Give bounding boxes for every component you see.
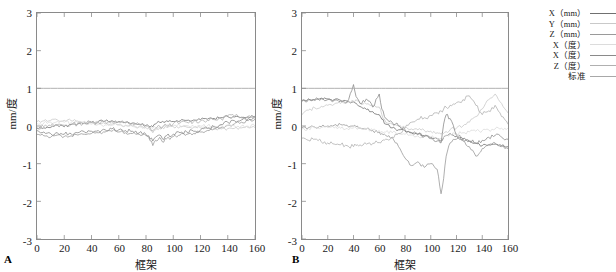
x-tick-label: 80 (401, 243, 412, 254)
y-axis-label-a: mm/度 (3, 84, 19, 144)
chart-legend: X（mm）Y（mm）Z（mm）X（度）X（度）Z（度）标准 (520, 8, 616, 82)
x-tick-label: 100 (424, 243, 441, 254)
legend-color-swatch (590, 55, 616, 56)
x-tick-label: 60 (375, 243, 386, 254)
y-axis-label-b: mm/度 (268, 84, 284, 144)
y-tick-label: -3 (288, 236, 297, 247)
legend-item-label: Y（mm） (549, 19, 586, 29)
series-line (302, 96, 508, 148)
y-tick-label: -2 (23, 198, 32, 209)
legend-item-label: X（度） (553, 40, 586, 50)
x-axis-label-a: 框架 (36, 256, 256, 272)
x-tick-label: 0 (299, 243, 305, 254)
series-line (37, 119, 255, 146)
legend-item: 标准 (520, 71, 616, 82)
legend-color-swatch (590, 65, 616, 66)
legend-item: Z（mm） (520, 29, 616, 40)
y-tick-label: 1 (292, 84, 298, 95)
y-tick-label: -2 (288, 198, 297, 209)
x-tick-label: 160 (502, 243, 519, 254)
legend-item: Y（mm） (520, 19, 616, 30)
series-line (302, 85, 508, 144)
y-tick-label: -3 (23, 236, 32, 247)
legend-color-swatch (590, 13, 616, 14)
plot-area-b: 3210-1-2-3 020406080100120140160 (301, 12, 509, 240)
x-tick-label: 40 (349, 243, 360, 254)
legend-item-label: X（mm） (549, 8, 586, 18)
y-tick-label: -1 (288, 160, 297, 171)
legend-color-swatch (590, 34, 616, 35)
plot-area-a: 3210-1-2-3 020406080100120140160 (36, 12, 256, 240)
y-tick-label: 2 (292, 46, 298, 57)
x-tick-label: 120 (194, 243, 211, 254)
y-tick-label: 3 (292, 8, 298, 19)
x-tick-label: 120 (450, 243, 467, 254)
y-tick-label: -1 (23, 160, 32, 171)
legend-color-swatch (590, 23, 616, 24)
panel-a: 3210-1-2-3 020406080100120140160 mm/度 框架… (0, 0, 290, 272)
x-tick-label: 0 (34, 243, 40, 254)
plot-lines-a (37, 13, 255, 239)
y-tick-label: 2 (27, 46, 33, 57)
x-tick-label: 80 (142, 243, 153, 254)
x-tick-label: 20 (59, 243, 70, 254)
x-tick-label: 140 (476, 243, 493, 254)
legend-color-swatch (590, 44, 616, 45)
panel-letter-b: B (292, 253, 299, 265)
series-line (37, 117, 255, 141)
legend-item-label: X（度） (553, 50, 586, 60)
y-tick-label: 0 (292, 122, 298, 133)
legend-color-swatch (590, 76, 616, 77)
x-tick-label: 140 (221, 243, 238, 254)
legend-item: X（度） (520, 50, 616, 61)
x-tick-label: 160 (249, 243, 266, 254)
legend-item: X（度） (520, 40, 616, 51)
x-axis-label-b: 框架 (301, 256, 509, 272)
panel-b: 3210-1-2-3 020406080100120140160 mm/度 框架… (290, 0, 520, 272)
legend-item-label: Z（度） (554, 61, 586, 71)
y-tick-label: 1 (27, 84, 33, 95)
legend-item-label: Z（mm） (550, 29, 586, 39)
x-tick-label: 60 (114, 243, 125, 254)
x-tick-label: 40 (87, 243, 98, 254)
figure-container: 3210-1-2-3 020406080100120140160 mm/度 框架… (0, 0, 616, 272)
plot-lines-b (302, 13, 508, 239)
legend-item: X（mm） (520, 8, 616, 19)
legend-item: Z（度） (520, 61, 616, 72)
x-tick-label: 100 (166, 243, 183, 254)
y-tick-label: 0 (27, 122, 33, 133)
panel-letter-a: A (4, 253, 12, 265)
x-tick-label: 20 (323, 243, 334, 254)
y-tick-label: 3 (27, 8, 33, 19)
legend-item-label: 标准 (568, 71, 586, 81)
